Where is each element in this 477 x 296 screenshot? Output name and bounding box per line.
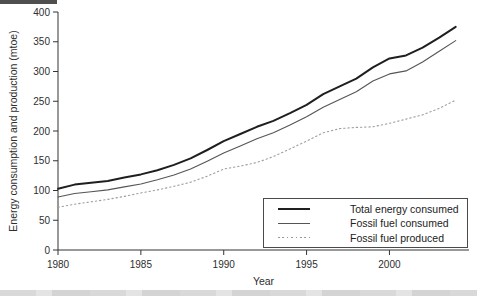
legend-item-total: Total energy consumed	[264, 202, 467, 216]
scan-artifact-top-bar	[0, 0, 57, 4]
chart-canvas: 0501001502002503003504001980198519901995…	[0, 0, 477, 296]
series-line-3	[58, 100, 456, 207]
legend-label-fossil-produced: Fossil fuel produced	[350, 232, 444, 244]
legend-item-fossil-produced: Fossil fuel produced	[264, 231, 467, 245]
y-axis-tick-label: 100	[33, 185, 50, 196]
x-axis-label: Year	[58, 275, 469, 287]
y-axis-tick-label: 150	[33, 155, 50, 166]
x-axis-tick-label: 1995	[295, 259, 318, 270]
legend-item-fossil-consumed: Fossil fuel consumed	[264, 216, 467, 230]
series-line-1	[58, 27, 456, 189]
legend-label-total: Total energy consumed	[350, 203, 459, 215]
legend-line-sample-fossil-consumed	[278, 223, 310, 224]
x-axis-tick-label: 1990	[213, 259, 236, 270]
y-axis-tick-label: 50	[39, 215, 51, 226]
y-axis-tick-label: 0	[44, 245, 50, 256]
x-axis-tick-label: 2000	[378, 259, 401, 270]
legend-label-fossil-consumed: Fossil fuel consumed	[350, 217, 449, 229]
y-axis-label: Energy consumption and production (mtoe)	[7, 30, 19, 231]
legend-line-sample-fossil-produced	[278, 237, 310, 238]
y-axis-tick-label: 300	[33, 66, 50, 77]
legend-line-sample-total	[278, 208, 310, 210]
x-axis-tick-label: 1980	[47, 259, 70, 270]
y-axis-tick-label: 250	[33, 96, 50, 107]
energy-line-chart-figure: 0501001502002503003504001980198519901995…	[0, 0, 477, 296]
legend: Total energy consumed Fossil fuel consum…	[263, 198, 468, 248]
y-axis-tick-label: 400	[33, 7, 50, 18]
series-line-2	[58, 41, 456, 197]
y-axis-tick-label: 200	[33, 126, 50, 137]
scan-artifact-cutoff-text-band	[0, 290, 477, 296]
x-axis-tick-label: 1985	[130, 259, 153, 270]
y-axis-tick-label: 350	[33, 36, 50, 47]
